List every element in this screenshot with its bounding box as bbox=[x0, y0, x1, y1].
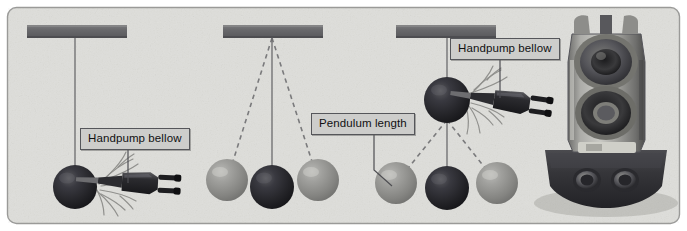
device-ear-left bbox=[574, 15, 590, 34]
g2-ball-rest bbox=[250, 165, 294, 209]
device-slot-shade bbox=[586, 144, 602, 151]
device-ear-gap bbox=[600, 15, 612, 34]
device-base-sheen bbox=[548, 153, 664, 168]
device-ear-right bbox=[622, 15, 638, 34]
support-bar-1 bbox=[27, 25, 127, 38]
callout-handpump-bellow-right[interactable]: Handpump bellow bbox=[450, 38, 560, 60]
g3-ball-right-highlight bbox=[482, 170, 498, 180]
device-upper-bore bbox=[574, 34, 638, 90]
g3-ball-raised-highlight bbox=[431, 85, 447, 96]
device-lower-bore bbox=[575, 86, 637, 140]
g2-ball-left bbox=[206, 159, 248, 201]
callout-pendulum-length[interactable]: Pendulum length bbox=[311, 113, 415, 135]
g3-ball-raised bbox=[424, 77, 470, 123]
g2-ball-right bbox=[297, 159, 339, 201]
g2-ball-rest-highlight bbox=[256, 173, 272, 184]
g1-ball-highlight bbox=[59, 173, 75, 184]
g1-ball-rest bbox=[53, 165, 97, 209]
g3-ball-rest-highlight bbox=[431, 174, 447, 185]
g3-ball-right bbox=[476, 162, 518, 204]
support-bar-3 bbox=[396, 25, 496, 38]
g3-ball-rest bbox=[425, 166, 469, 210]
g2-ball-right-highlight bbox=[303, 167, 319, 177]
device-edge-highlight-left bbox=[570, 60, 574, 140]
device-edge-highlight-right bbox=[639, 60, 643, 140]
callout-handpump-bellow-left[interactable]: Handpump bellow bbox=[80, 128, 190, 150]
pendulum-diagram-figure: Handpump bellow Pendulum length Handpump… bbox=[0, 0, 687, 231]
support-bar-2 bbox=[223, 25, 323, 38]
g2-ball-left-highlight bbox=[212, 167, 228, 177]
g3-ball-left bbox=[375, 162, 417, 204]
